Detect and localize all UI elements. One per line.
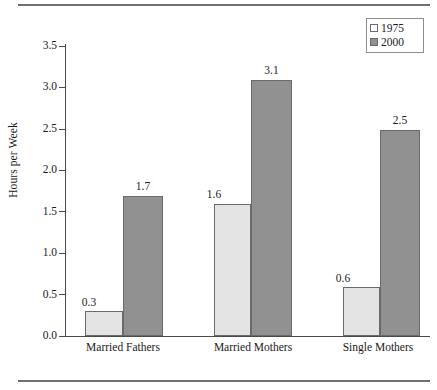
legend-entry-1975[interactable]: 1975: [370, 21, 420, 35]
bar-married-mothers-2000[interactable]: [251, 80, 292, 336]
bottom-horizontal-rule: [18, 380, 430, 382]
chart-legend[interactable]: 1975 2000: [366, 18, 424, 53]
y-tick-label: 1.0: [17, 247, 57, 259]
bar-value-label: 0.6: [324, 272, 362, 284]
bar-married-mothers-1975[interactable]: [214, 204, 251, 336]
top-horizontal-rule: [18, 4, 430, 6]
y-tick-label: 2.0: [17, 164, 57, 176]
bar-married-fathers-2000[interactable]: [123, 196, 163, 336]
plot-area: [65, 46, 430, 336]
dark-gray-swatch-icon: [370, 38, 378, 46]
legend-entry-2000[interactable]: 2000: [370, 35, 420, 49]
y-tick-label: 0.0: [17, 330, 57, 342]
bar-single-mothers-2000[interactable]: [380, 130, 420, 336]
bar-chart-figure: 3.5 3.0 2.5 2.0 1.5 1.0 0.5 0.0 Hours pe…: [0, 0, 437, 390]
category-label-married-fathers: Married Fathers: [63, 341, 183, 354]
y-tick-mark: [59, 336, 65, 337]
category-label-single-mothers: Single Mothers: [322, 341, 434, 354]
y-tick-label: 0.5: [17, 289, 57, 301]
bar-value-label: 1.7: [123, 180, 163, 192]
y-axis-tick-labels: 3.5 3.0 2.5 2.0 1.5 1.0 0.5 0.0: [13, 0, 57, 390]
bar-value-label: 3.1: [251, 64, 292, 76]
y-tick-label: 1.5: [17, 206, 57, 218]
legend-label: 1975: [381, 22, 404, 34]
bar-value-label: 1.6: [195, 188, 233, 200]
y-tick-label: 2.5: [17, 123, 57, 135]
light-gray-swatch-icon: [370, 24, 378, 32]
bar-married-fathers-1975[interactable]: [85, 311, 123, 336]
bar-single-mothers-1975[interactable]: [343, 287, 380, 337]
legend-label: 2000: [381, 36, 404, 48]
y-axis-title: Hours per Week: [7, 100, 19, 220]
x-axis-line: [65, 336, 430, 337]
category-label-married-mothers: Married Mothers: [193, 341, 313, 354]
y-tick-label: 3.5: [17, 40, 57, 52]
bar-value-label: 0.3: [70, 296, 108, 308]
bar-value-label: 2.5: [380, 114, 420, 126]
y-tick-label: 3.0: [17, 81, 57, 93]
